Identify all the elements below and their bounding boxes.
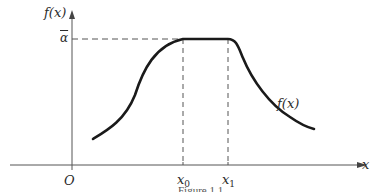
y-axis-arrow-icon (69, 10, 75, 19)
x-axis-label: x (362, 158, 369, 171)
function-curve (93, 39, 314, 139)
alpha-bar-label: α (60, 32, 68, 44)
figure-caption: Figure 1.1 (178, 184, 223, 192)
diagram-canvas (0, 0, 370, 192)
alpha-bar-text: α (60, 31, 68, 45)
x1-sub: 1 (229, 179, 235, 189)
curve-label: f(x) (277, 97, 299, 110)
origin-label: O (64, 174, 75, 187)
x1-label: x1 (222, 173, 235, 189)
y-axis-label: f(x) (44, 6, 66, 19)
